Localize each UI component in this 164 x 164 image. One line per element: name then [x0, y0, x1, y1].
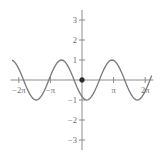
x-tick-label: π	[111, 85, 116, 95]
y-tick-label: −3	[68, 135, 77, 145]
y-tick-label: 1	[73, 55, 77, 65]
origin-point-marker	[80, 78, 85, 83]
x-tick-label: −2π	[12, 85, 26, 95]
cosine-graph-figure: −2π−ππ2π321−1−2−3	[0, 0, 164, 164]
annotation-markers-group	[80, 78, 85, 83]
plot-area: −2π−ππ2π321−1−2−3	[0, 0, 164, 164]
x-tick-label: 2π	[141, 85, 150, 95]
y-tick-label: −1	[68, 95, 77, 105]
x-tick-label: −π	[46, 85, 56, 95]
y-tick-label: 2	[73, 35, 77, 45]
y-tick-label: −2	[68, 115, 77, 125]
y-tick-label: 3	[73, 15, 77, 25]
